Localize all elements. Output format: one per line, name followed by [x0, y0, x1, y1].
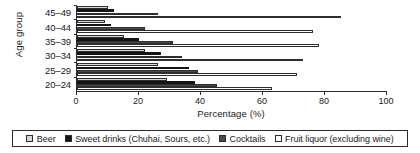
- age-group-row: 35–39: [77, 34, 387, 48]
- y-axis-tick-label: 35–39: [45, 36, 71, 47]
- x-axis-tick: [138, 91, 139, 95]
- y-axis-tick-label: 40–44: [45, 22, 71, 33]
- bar: [77, 87, 272, 90]
- y-axis-tick-label: 30–34: [45, 50, 71, 61]
- bar: [77, 16, 341, 19]
- age-group-row: 40–44: [77, 19, 387, 33]
- age-group-row: 20–24: [77, 77, 387, 91]
- plot-area: 45–4940–4435–3930–3425–2920–24: [76, 5, 387, 91]
- x-axis-tick-label: 60: [257, 96, 267, 106]
- x-axis-tick: [386, 91, 387, 95]
- x-axis-tick-label: 100: [378, 96, 393, 106]
- legend-label: Cocktails: [230, 134, 266, 144]
- y-axis-tick-label: 20–24: [45, 79, 71, 90]
- x-axis-tick: [262, 91, 263, 95]
- legend-label: Beer: [37, 134, 56, 144]
- x-axis-tick: [324, 91, 325, 95]
- legend-item[interactable]: Fruit liquor (excluding wine): [275, 134, 394, 144]
- x-axis-tick-label: 20: [133, 96, 143, 106]
- bar: [77, 30, 313, 33]
- x-axis-tick-label: 80: [319, 96, 329, 106]
- legend-swatch-icon: [26, 135, 33, 142]
- legend-label: Sweet drinks (Chuhai, Sours, etc.): [75, 134, 210, 144]
- age-group-row: 45–49: [77, 5, 387, 19]
- legend-item[interactable]: Cocktails: [219, 134, 266, 144]
- x-axis-tick: [200, 91, 201, 95]
- chart-legend: BeerSweet drinks (Chuhai, Sours, etc.)Co…: [12, 130, 408, 147]
- y-axis-tick-label: 25–29: [45, 65, 71, 76]
- x-axis-line: [76, 91, 386, 92]
- bar-chart-figure: Age group 45–4940–4435–3930–3425–2920–24…: [0, 0, 420, 153]
- bar: [77, 44, 319, 47]
- legend-swatch-icon: [65, 135, 72, 142]
- age-group-row: 25–29: [77, 62, 387, 76]
- y-axis-tick-label: 45–49: [45, 7, 71, 18]
- x-axis-tick: [76, 91, 77, 95]
- x-axis-tick-label: 0: [73, 96, 78, 106]
- legend-item[interactable]: Beer: [26, 134, 55, 144]
- legend-swatch-icon: [275, 135, 282, 142]
- bar: [77, 73, 297, 76]
- bar: [77, 59, 303, 62]
- legend-label: Fruit liquor (excluding wine): [285, 134, 394, 144]
- x-axis-tick-label: 40: [195, 96, 205, 106]
- legend-swatch-icon: [219, 135, 226, 142]
- y-axis-title: Age group: [13, 0, 24, 75]
- x-axis-title: Percentage (%): [76, 108, 386, 119]
- legend-item[interactable]: Sweet drinks (Chuhai, Sours, etc.): [65, 134, 210, 144]
- age-group-row: 30–34: [77, 48, 387, 62]
